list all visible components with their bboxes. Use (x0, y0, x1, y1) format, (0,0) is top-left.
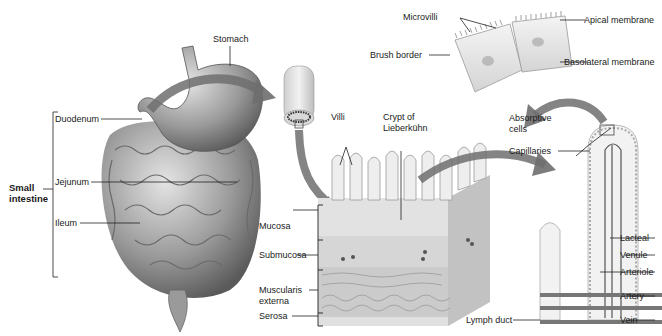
label-crypt-2: Lieberkühn (383, 123, 428, 133)
label-stomach: Stomach (213, 34, 249, 44)
label-lacteal: Lacteal (620, 233, 649, 243)
label-apical-membrane: Apical membrane (584, 15, 654, 25)
small-intestine-diagram: Stomach Duodenum Small intestine Jejunum… (0, 0, 662, 336)
label-artery: Artery (620, 291, 644, 301)
label-small-intestine-1: Small (9, 183, 34, 193)
label-vein: Vein (620, 315, 638, 325)
illustration (0, 0, 662, 336)
label-serosa: Serosa (259, 311, 288, 321)
intestinal-wall-block (318, 143, 490, 326)
label-muscularis-2: externa (259, 296, 289, 306)
label-capillaries: Capillaries (509, 146, 551, 156)
intestine-tube-section (284, 66, 314, 128)
label-microvilli: Microvilli (403, 12, 438, 22)
label-submucosa: Submucosa (259, 250, 307, 260)
label-jejunum: Jejunum (55, 177, 89, 187)
label-mucosa: Mucosa (259, 221, 291, 231)
label-small-intestine-2: intestine (9, 194, 48, 204)
label-ileum: Ileum (55, 218, 77, 228)
label-brush-border: Brush border (370, 50, 422, 60)
label-villi: Villi (331, 112, 345, 122)
label-absorptive-1: Absorptive (509, 113, 552, 123)
label-basolateral-membrane: Basolateral membrane (564, 57, 655, 67)
epithelial-cells (455, 11, 572, 92)
label-venule: Venule (620, 250, 648, 260)
label-crypt-1: Crypt of (383, 112, 415, 122)
label-absorptive-2: cells (509, 124, 527, 134)
label-lymph-duct: Lymph duct (466, 315, 512, 325)
intestines-illustration (102, 120, 261, 332)
label-arteriole: Arteriole (620, 267, 654, 277)
label-duodenum: Duodenum (55, 114, 99, 124)
label-muscularis-1: Muscularis (259, 285, 302, 295)
